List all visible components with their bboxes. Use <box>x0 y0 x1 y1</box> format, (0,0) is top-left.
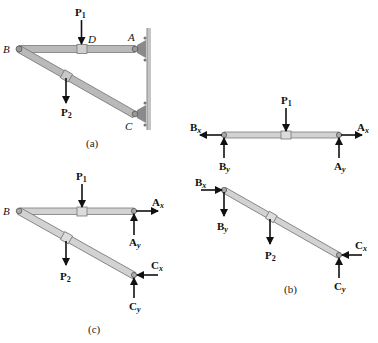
label-cy: Cy <box>334 280 346 294</box>
frame-diagram: P1 P2 B D A C (a) P1 Bx By Ax Ay <box>0 0 378 343</box>
label-cx: Cx <box>355 239 367 253</box>
label-bx: Bx <box>190 121 201 135</box>
label-p1: P1 <box>281 94 292 108</box>
pin-a-c <box>131 208 136 213</box>
label-ax: Ax <box>357 121 369 135</box>
member-bc-c <box>17 208 136 279</box>
label-ax: Ax <box>152 196 164 210</box>
caption-b: (b) <box>284 283 297 296</box>
pin-b <box>16 46 22 52</box>
sleeve-d <box>77 45 87 54</box>
label-p1: P1 <box>76 170 87 184</box>
label-cy: Cy <box>129 300 141 314</box>
pin-b-c <box>16 208 22 214</box>
pin-a-fbd <box>336 132 341 137</box>
label-point-c: C <box>125 120 133 132</box>
label-point-d: D <box>87 33 96 45</box>
label-by: By <box>217 220 228 234</box>
sleeve-d-c <box>77 207 87 216</box>
label-point-b: B <box>3 43 10 55</box>
label-point-b: B <box>3 205 10 217</box>
panel-a: P1 P2 B D A C (a) <box>3 6 151 150</box>
pin-b-fbd <box>221 187 226 192</box>
member-bc <box>17 46 136 118</box>
panel-b-member-ab: P1 Bx By Ax Ay <box>190 94 369 174</box>
member-bc-fbd <box>223 187 341 258</box>
label-cx: Cx <box>151 259 163 273</box>
member-ab-c <box>19 208 134 215</box>
label-by: By <box>219 160 230 174</box>
pin-c-c <box>131 272 136 277</box>
caption-c: (c) <box>88 323 101 336</box>
sleeve-d-fbd <box>281 131 291 139</box>
caption-a: (a) <box>86 137 99 150</box>
wall <box>147 28 151 130</box>
label-p1: P1 <box>75 6 86 20</box>
label-point-a: A <box>127 31 135 43</box>
label-bx: Bx <box>195 176 206 190</box>
bracket-a <box>137 40 146 58</box>
label-ay: Ay <box>334 160 346 174</box>
panel-b-member-bc: Bx By P2 Cx Cy (b) <box>195 176 367 296</box>
bracket-c <box>137 105 146 123</box>
panel-c: B P1 Ax Ay P2 Cx Cy (c) <box>3 170 164 336</box>
pin-b-fbd <box>221 132 226 137</box>
pin-c <box>132 111 138 117</box>
label-ay: Ay <box>129 236 141 250</box>
pin-c-fbd <box>336 252 341 257</box>
label-p2: P2 <box>60 270 71 284</box>
label-p2: P2 <box>265 249 276 263</box>
pin-a <box>132 46 138 52</box>
label-p2: P2 <box>61 106 72 120</box>
